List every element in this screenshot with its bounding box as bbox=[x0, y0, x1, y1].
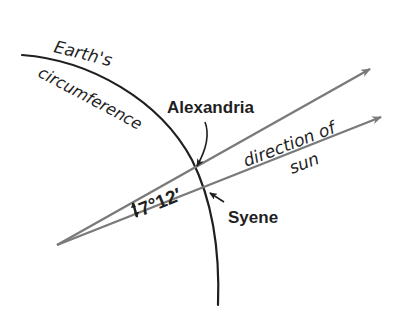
label-syene: Syene bbox=[228, 208, 278, 227]
label-angle-value: 7°12′ bbox=[136, 184, 185, 220]
label-circumference: circumference bbox=[35, 63, 146, 134]
alexandria-pointer-icon bbox=[197, 122, 207, 166]
earth-circumference-arc bbox=[22, 55, 218, 305]
label-alexandria: Alexandria bbox=[167, 98, 254, 117]
eratosthenes-diagram: Earth's circumference Alexandria Syene d… bbox=[0, 0, 401, 317]
label-earths: Earth's bbox=[52, 36, 114, 70]
syene-pointer-icon bbox=[210, 193, 224, 202]
